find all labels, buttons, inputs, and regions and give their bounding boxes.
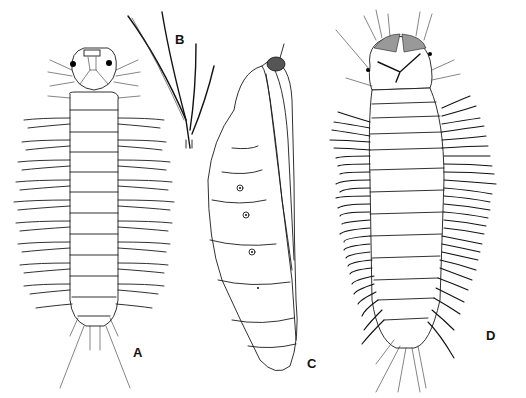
figure-canvas: A B C D xyxy=(0,0,526,398)
panel-c-pupa xyxy=(208,44,297,371)
panel-label-d: D xyxy=(486,328,495,343)
figure-drawing xyxy=(0,0,526,398)
panel-b-seta-detail xyxy=(128,12,214,148)
panel-label-c: C xyxy=(307,356,316,371)
panel-label-a: A xyxy=(133,345,142,360)
panel-a-larva xyxy=(14,48,174,388)
panel-label-b: B xyxy=(175,32,184,47)
panel-d-larva xyxy=(330,10,496,392)
